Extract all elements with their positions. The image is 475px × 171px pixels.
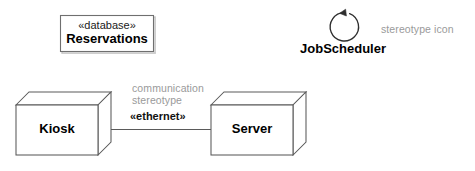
stereotype-icon-element-label: JobScheduler <box>297 42 389 57</box>
node-kiosk-label: Kiosk <box>16 122 98 137</box>
connector-annotation-line2: stereotype <box>132 95 182 107</box>
circular-arrow-head <box>340 9 347 16</box>
stereotype-icon-annotation: stereotype icon <box>381 24 454 36</box>
artifact-stereotype-label: «database» <box>60 19 154 31</box>
circular-arrow-icon[interactable] <box>330 9 358 41</box>
kiosk-top-face <box>16 92 111 105</box>
node-server-label: Server <box>211 122 293 137</box>
connector-stereotype-label: «ethernet» <box>130 110 186 122</box>
connector-annotation-line1: communication <box>132 83 204 95</box>
server-top-face <box>211 92 306 105</box>
artifact-name-label: Reservations <box>60 32 154 47</box>
uml-deployment-diagram: «database» Reservations Kiosk Server com… <box>0 0 475 171</box>
circular-arrow-ring <box>330 13 358 41</box>
